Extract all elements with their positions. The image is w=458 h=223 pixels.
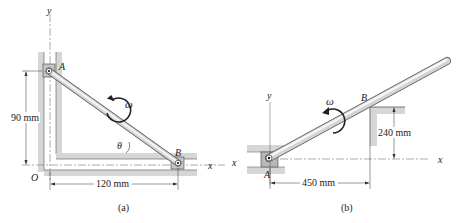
origin-label: O bbox=[31, 172, 38, 183]
point-a-label: A bbox=[58, 61, 66, 72]
x-axis-b-left-label: x bbox=[231, 157, 237, 168]
theta-label: θ bbox=[117, 140, 122, 151]
y-axis-b-label: y bbox=[266, 90, 272, 101]
figure-b-caption: (b) bbox=[341, 202, 353, 214]
y-axis-label: y bbox=[46, 5, 52, 16]
rod-b bbox=[268, 60, 447, 158]
point-b-b-label: B bbox=[361, 92, 367, 103]
dimension-240mm-label: 240 mm bbox=[378, 127, 411, 138]
mechanism-diagrams: y x O A B ω θ bbox=[0, 0, 458, 223]
figure-a-caption: (a) bbox=[118, 202, 129, 214]
point-b-label: B bbox=[175, 147, 181, 158]
dimension-450mm-label: 450 mm bbox=[302, 177, 335, 188]
omega-b-label: ω bbox=[326, 95, 334, 107]
theta-arc bbox=[126, 142, 130, 153]
dimension-90mm-label: 90 mm bbox=[11, 112, 39, 123]
x-axis-b-right-label: x bbox=[437, 154, 443, 165]
x-axis-label: x bbox=[207, 160, 213, 171]
figure-a: y x O A B ω θ bbox=[10, 5, 225, 214]
omega-label: ω bbox=[125, 98, 133, 110]
dimension-120mm-label: 120 mm bbox=[96, 178, 129, 189]
rod-ab bbox=[48, 70, 178, 163]
figure-b: y x x A B ω 240 mm bbox=[231, 60, 447, 214]
